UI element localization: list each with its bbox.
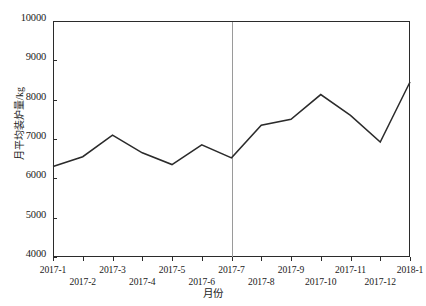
x-tick-mark [113, 257, 114, 261]
x-tick-mark [142, 257, 143, 261]
x-tick-mark [261, 257, 262, 261]
x-tick-label: 2017-6 [188, 277, 215, 287]
y-tick-label: 4000 [26, 249, 46, 260]
x-tick-label: 2017-1 [40, 265, 67, 275]
x-tick-mark [380, 257, 381, 261]
x-tick-label: 2017-3 [99, 265, 126, 275]
x-tick-mark [321, 257, 322, 261]
x-tick-label: 2018-1 [397, 265, 424, 275]
x-tick-mark [291, 257, 292, 261]
y-tick-mark [53, 139, 57, 140]
x-tick-label: 2017-4 [129, 277, 156, 287]
x-tick-label: 2017-5 [159, 265, 186, 275]
vertical-reference-line [232, 22, 233, 257]
x-tick-label: 2017-8 [248, 277, 275, 287]
x-tick-mark [202, 257, 203, 261]
y-tick-label: 7000 [26, 131, 46, 142]
y-tick-label: 10000 [21, 13, 46, 24]
x-tick-label: 2017-10 [305, 277, 336, 287]
x-tick-mark [53, 257, 54, 261]
y-tick-label: 8000 [26, 92, 46, 103]
y-tick-mark [53, 100, 57, 101]
x-tick-label: 2017-9 [278, 265, 305, 275]
y-tick-mark [53, 218, 57, 219]
y-tick-label: 5000 [26, 210, 46, 221]
y-axis-title: 月平均装炉量/kg [14, 49, 25, 199]
x-tick-label: 2017-7 [218, 265, 245, 275]
y-tick-mark [53, 60, 57, 61]
x-tick-mark [83, 257, 84, 261]
y-tick-mark [53, 21, 57, 22]
line-chart: 40005000600070008000900010000 2017-12017… [0, 0, 426, 306]
y-tick-label: 9000 [26, 52, 46, 63]
x-tick-label: 2017-11 [335, 265, 366, 275]
x-tick-mark [351, 257, 352, 261]
x-tick-label: 2017-12 [365, 277, 396, 287]
x-axis-title: 月份 [0, 288, 426, 300]
x-tick-label: 2017-2 [69, 277, 96, 287]
x-tick-mark [410, 257, 411, 261]
x-tick-mark [172, 257, 173, 261]
y-tick-label: 6000 [26, 170, 46, 181]
x-tick-mark [232, 257, 233, 261]
y-tick-mark [53, 178, 57, 179]
